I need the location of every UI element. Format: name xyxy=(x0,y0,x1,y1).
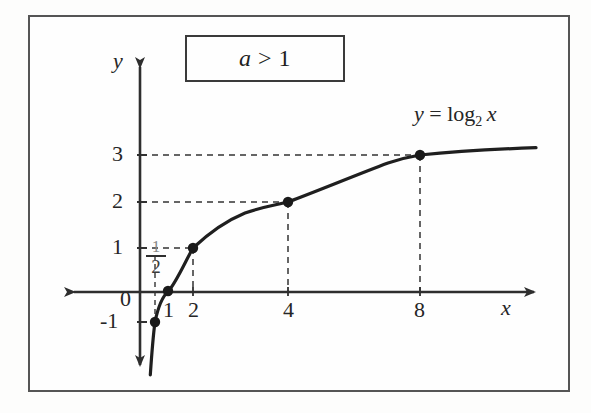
x-tick-label-8: 8 xyxy=(414,299,425,321)
origin-label: 0 xyxy=(120,288,131,310)
log-curve xyxy=(150,148,536,375)
y-axis-letter: y xyxy=(113,50,123,72)
y-tick-label-2: 2 xyxy=(112,190,123,212)
x-tick-label-one-half: 1 2 xyxy=(143,240,169,275)
data-point-8-3 xyxy=(415,150,425,160)
data-point-1-0 xyxy=(163,286,173,296)
x-tick-label-4: 4 xyxy=(283,299,294,321)
fraction-numerator: 1 xyxy=(143,240,169,254)
data-point-half-neg1 xyxy=(150,317,160,327)
y-tick-label-1: 1 xyxy=(112,236,123,258)
condition-text: a > 1 xyxy=(239,45,291,72)
x-tick-label-1: 1 xyxy=(163,299,174,321)
x-tick-label-2: 2 xyxy=(188,299,199,321)
data-point-2-1 xyxy=(188,243,198,253)
log-function-figure: a > 1 y = log2 x y x 3 2 1 -1 0 1 2 4 8 … xyxy=(0,0,591,413)
y-tick-label-3: 3 xyxy=(112,143,123,165)
data-point-4-2 xyxy=(283,197,293,207)
condition-box: a > 1 xyxy=(185,35,345,82)
curve-equation-label: y = log2 x xyxy=(414,103,496,129)
fraction-denominator: 2 xyxy=(143,258,169,275)
y-tick-label-minus-1: -1 xyxy=(100,310,118,332)
x-axis-letter: x xyxy=(501,297,511,319)
